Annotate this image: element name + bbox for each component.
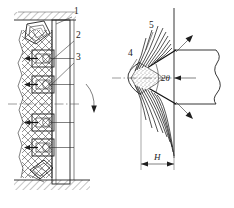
leader-line-2 xyxy=(52,41,74,60)
left-panel: 1 2 3 xyxy=(8,6,97,190)
thrust-arrow xyxy=(174,75,196,80)
leader-line-5 xyxy=(146,32,153,50)
figure-canvas: 1 2 3 xyxy=(0,0,234,208)
callout-3: 3 xyxy=(76,52,81,62)
depth-dimension-label-h: H xyxy=(153,152,161,162)
lining-plate xyxy=(52,20,70,184)
rotation-direction-arrow xyxy=(86,84,97,113)
face-reaction-arrow-lower xyxy=(176,102,193,119)
roof-hatching xyxy=(14,12,76,20)
callout-5: 5 xyxy=(149,20,154,30)
face-reaction-arrow-upper xyxy=(176,35,193,52)
callout-4: 4 xyxy=(128,48,133,58)
callout-2: 2 xyxy=(76,30,81,40)
technical-figure: 1 2 3 xyxy=(0,0,234,208)
angle-label-2theta: 2θ xyxy=(161,73,171,83)
right-panel: 2θ H xyxy=(112,8,220,170)
callout-1: 1 xyxy=(74,6,79,16)
